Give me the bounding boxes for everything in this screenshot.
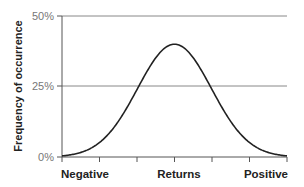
x-label-returns: Returns xyxy=(157,168,200,180)
x-label-positive: Positive xyxy=(244,168,288,180)
y-tick-label-50: 50% xyxy=(32,10,54,22)
bell-curve-chart: 50% 25% 0% Frequency of occurrence Negat… xyxy=(0,0,304,187)
x-ticks xyxy=(62,157,287,162)
x-label-negative: Negative xyxy=(61,168,109,180)
y-tick-label-25: 25% xyxy=(32,80,54,92)
distribution-curve xyxy=(62,44,287,156)
y-tick-label-0: 0% xyxy=(38,151,54,163)
y-axis-title: Frequency of occurrence xyxy=(12,20,24,151)
